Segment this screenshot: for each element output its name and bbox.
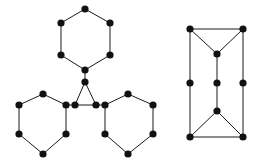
graph-node xyxy=(71,101,78,108)
graph-node xyxy=(39,90,46,97)
graph-node xyxy=(186,133,193,140)
graph-node xyxy=(81,66,88,73)
graph-node xyxy=(15,130,22,137)
graph-node xyxy=(92,101,99,108)
graph-node xyxy=(106,51,113,58)
graph-node xyxy=(81,78,88,85)
graph-node xyxy=(62,101,69,108)
graph-node xyxy=(124,90,131,97)
graph-node xyxy=(213,107,220,114)
graph-node xyxy=(81,5,88,12)
graph-node xyxy=(57,51,64,58)
graph-node xyxy=(101,101,108,108)
graph-node xyxy=(239,133,246,140)
graph-figure-canvas xyxy=(0,0,262,161)
graph-node xyxy=(149,101,156,108)
graph-node xyxy=(15,101,22,108)
graph-node xyxy=(62,130,69,137)
graph-node xyxy=(124,150,131,157)
graph-node xyxy=(149,130,156,137)
graph-node xyxy=(57,19,64,26)
graph-node xyxy=(39,150,46,157)
graph-node xyxy=(186,25,193,32)
graph-node xyxy=(213,79,220,86)
graph-node xyxy=(106,19,113,26)
graph-node xyxy=(101,130,108,137)
graph-node xyxy=(186,79,193,86)
graph-node xyxy=(213,50,220,57)
graph-node xyxy=(239,25,246,32)
graph-node xyxy=(239,79,246,86)
